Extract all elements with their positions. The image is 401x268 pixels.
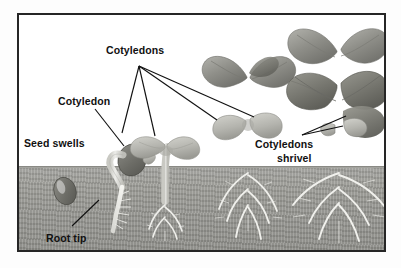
label-seed-swells: Seed swells [24,137,85,149]
label-shrivel: shrivel [277,152,312,164]
illustration-frame: Cotyledons Cotyledon Seed swells Root ti… [17,13,386,252]
label-cotyledons-top: Cotyledons [106,44,164,56]
leader-cotyledon-to-seed [95,109,124,146]
shriveled-cotyledon-right [344,118,367,136]
diagram-canvas: Cotyledons Cotyledon Seed swells Root ti… [0,0,401,268]
stage-5-mature-plant [287,29,386,243]
label-cotyledon-single: Cotyledon [58,95,110,107]
plant-artwork [19,15,386,252]
leader-cotyledons-to-stage3-left [122,66,139,133]
leader-cotyledons-to-stage3-right [139,66,155,136]
leader-root-tip-to-root [72,200,99,226]
label-cotyledons-shrivel: Cotyledons [255,138,313,150]
stage-1-dormant-seed [50,174,80,207]
label-root-tip: Root tip [46,232,86,244]
stage-3-seedling [130,137,200,241]
